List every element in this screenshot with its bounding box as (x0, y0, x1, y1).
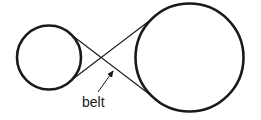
belt-segment-lower-to-upper (69, 15, 157, 82)
belt-label: belt (82, 94, 105, 110)
belt-segment-upper-to-lower (69, 33, 157, 100)
belt-pointer-arrow (98, 71, 113, 92)
crossed-belt-diagram: belt (0, 0, 261, 120)
